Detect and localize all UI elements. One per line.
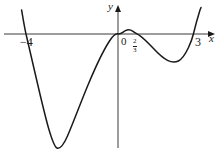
fraction-denominator: 3: [133, 47, 137, 54]
graph-canvas: [0, 0, 220, 152]
y-axis-arrowhead: [115, 5, 121, 12]
quartic-curve: [22, 8, 201, 149]
x-axis-label: x: [209, 33, 214, 44]
x-tick-label-neg4: −4: [20, 36, 33, 48]
origin-label: 0: [121, 36, 127, 47]
x-tick-label-two-thirds: 2 3: [133, 38, 137, 55]
y-axis-label: y: [108, 1, 113, 12]
fraction-numerator: 2: [133, 38, 137, 45]
x-tick-label-3: 3: [195, 36, 201, 48]
graph-figure: −4 0 2 3 3 x y: [0, 0, 220, 152]
